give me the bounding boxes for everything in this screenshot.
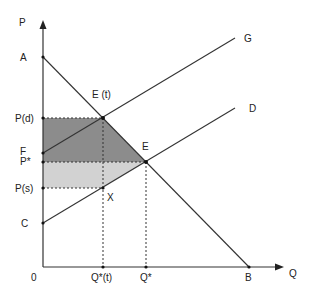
label-pstar: P* — [20, 156, 31, 167]
point-qt — [101, 265, 104, 268]
taxed-supply-curve — [43, 38, 235, 153]
y-axis-label: P — [19, 17, 26, 28]
point-x — [101, 186, 104, 189]
point-et — [101, 116, 105, 120]
point-f — [41, 151, 44, 154]
point-ps — [41, 186, 44, 189]
point-e — [144, 160, 148, 164]
label-ps: P(s) — [15, 183, 33, 194]
label-pd: P(d) — [15, 113, 34, 124]
label-g: G — [244, 33, 252, 44]
producer-burden-area — [43, 162, 146, 188]
point-a — [41, 55, 44, 58]
point-pd — [41, 116, 44, 119]
point-c — [41, 221, 44, 224]
point-qstar — [144, 265, 147, 268]
point-b — [247, 265, 250, 268]
origin-label: 0 — [31, 272, 37, 283]
label-c: C — [21, 218, 28, 229]
label-qstar: Q* — [140, 272, 152, 283]
label-d: D — [249, 103, 256, 114]
consumer-burden-area — [43, 118, 146, 162]
label-a: A — [20, 52, 27, 63]
label-b: B — [245, 272, 252, 283]
y-axis-arrow-icon — [40, 20, 47, 29]
tax-incidence-diagram: P Q 0 A P(d) F P* P(s) C Q*(t) Q* B E (t… — [0, 0, 309, 298]
point-pstar — [41, 160, 44, 163]
x-axis-label: Q — [289, 268, 297, 279]
label-x: X — [107, 192, 114, 203]
label-qt: Q*(t) — [91, 272, 112, 283]
label-et: E (t) — [92, 89, 111, 100]
label-e: E — [142, 141, 149, 152]
x-axis-arrow-icon — [275, 264, 284, 271]
